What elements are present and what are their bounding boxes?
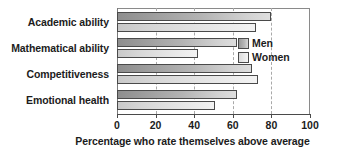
bar-women-emotional-health	[117, 101, 215, 110]
bar-men-competitiveness	[117, 64, 252, 73]
plot-border-top	[117, 8, 310, 9]
x-tick-label-20: 20	[136, 119, 176, 131]
x-tick-label-60: 60	[213, 119, 253, 131]
x-axis-line	[117, 114, 310, 115]
legend-label-women: Women	[252, 51, 290, 64]
legend: Men Women	[238, 37, 308, 65]
bar-men-emotional-health	[117, 90, 237, 99]
category-label-mathematical-ability: Mathematical ability	[0, 43, 109, 54]
category-label-emotional-health: Emotional health	[0, 95, 109, 106]
bar-women-academic-ability	[117, 23, 256, 32]
bar-chart: Academic ability Mathematical ability Co…	[0, 0, 351, 153]
legend-item-men: Men	[238, 37, 308, 50]
legend-swatch-women-icon	[238, 52, 249, 63]
x-tick-label-100: 100	[290, 119, 330, 131]
legend-label-men: Men	[252, 37, 273, 50]
x-tick-100	[310, 114, 311, 118]
plot-border-right	[309, 8, 310, 114]
bar-women-competitiveness	[117, 75, 258, 84]
x-axis-title: Percentage who rate themselves above ave…	[0, 135, 351, 147]
x-tick-40	[194, 114, 195, 118]
bar-men-academic-ability	[117, 12, 271, 21]
bar-women-mathematical-ability	[117, 49, 198, 58]
bar-men-mathematical-ability	[117, 38, 237, 47]
x-tick-60	[233, 114, 234, 118]
x-tick-0	[117, 114, 118, 118]
legend-item-women: Women	[238, 51, 308, 64]
x-tick-label-40: 40	[174, 119, 214, 131]
x-tick-label-80: 80	[251, 119, 291, 131]
category-label-academic-ability: Academic ability	[0, 17, 109, 28]
x-tick-label-0: 0	[97, 119, 137, 131]
x-tick-80	[271, 114, 272, 118]
category-axis: Academic ability Mathematical ability Co…	[0, 8, 113, 114]
legend-swatch-men-icon	[238, 38, 249, 49]
category-label-competitiveness: Competitiveness	[0, 69, 109, 80]
x-tick-20	[156, 114, 157, 118]
